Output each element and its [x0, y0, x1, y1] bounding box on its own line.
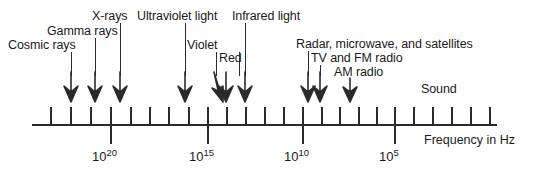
- arrow-am-radio: [341, 78, 359, 102]
- tick-label-e10-exponent: 10: [298, 147, 309, 158]
- tick-label-e15-exponent: 15: [203, 147, 214, 158]
- axis-tick: [489, 107, 491, 125]
- arrow-red: [217, 72, 235, 102]
- axis-major-tick-e20: [110, 107, 112, 144]
- leader-line-x-rays: [120, 23, 121, 76]
- label-violet: Violet: [187, 39, 217, 52]
- axis-tick: [339, 107, 341, 125]
- axis-title-frequency: Frequency in Hz: [424, 133, 515, 147]
- axis-tick: [358, 107, 360, 125]
- axis-tick: [226, 107, 228, 125]
- axis-tick: [321, 107, 323, 125]
- axis-tick: [70, 107, 72, 125]
- label-ultraviolet-light: Ultraviolet light: [137, 10, 217, 23]
- spectrum-figure: Cosmic rays Gamma rays X-rays Ultraviole…: [0, 0, 536, 174]
- label-cosmic-rays: Cosmic rays: [8, 39, 76, 52]
- axis-tick: [432, 107, 434, 125]
- axis-tick: [376, 107, 378, 125]
- axis-tick: [470, 107, 472, 125]
- axis-major-tick-e10: [302, 107, 304, 144]
- arrow-infrared-light: [236, 72, 254, 102]
- axis-tick: [413, 107, 415, 125]
- axis-major-tick-e15: [207, 107, 209, 144]
- tick-label-e5-base: 10: [379, 149, 393, 164]
- axis-tick: [451, 107, 453, 125]
- axis-tick: [149, 107, 151, 125]
- arrow-x-rays: [111, 72, 129, 102]
- arrow-gamma-rays: [86, 72, 104, 102]
- tick-label-e20: 1020: [92, 149, 117, 164]
- label-radar-microwave-satellites: Radar, microwave, and satellites: [296, 38, 473, 51]
- axis-tick: [168, 107, 170, 125]
- tick-label-e10: 1010: [284, 149, 309, 164]
- tick-label-e15-base: 10: [189, 149, 203, 164]
- tick-label-e5: 105: [379, 149, 399, 164]
- axis-tick: [90, 107, 92, 125]
- label-gamma-rays: Gamma rays: [47, 25, 118, 38]
- label-tv-and-fm-radio: TV and FM radio: [311, 52, 403, 65]
- arrow-ultraviolet-light: [176, 72, 194, 102]
- label-x-rays: X-rays: [92, 10, 128, 23]
- tick-label-e20-base: 10: [92, 149, 106, 164]
- leader-line-ultraviolet-light: [185, 23, 186, 76]
- axis-major-tick-e5: [394, 107, 396, 144]
- tick-label-e5-exponent: 5: [393, 147, 398, 158]
- tick-label-e10-base: 10: [284, 149, 298, 164]
- label-sound: Sound: [421, 83, 457, 96]
- label-infrared-light: Infrared light: [232, 10, 300, 23]
- arrow-tv-and-fm-radio: [311, 72, 329, 102]
- tick-label-e15: 1015: [189, 149, 214, 164]
- leader-line-gamma-rays: [95, 38, 96, 76]
- axis-tick: [130, 107, 132, 125]
- arrow-cosmic-rays: [62, 72, 80, 102]
- axis-tick: [188, 107, 190, 125]
- axis-tick: [264, 107, 266, 125]
- axis-tick: [283, 107, 285, 125]
- axis-tick: [50, 107, 52, 125]
- axis-tick: [245, 107, 247, 125]
- tick-label-e20-exponent: 20: [106, 147, 117, 158]
- leader-line-infrared-light: [245, 23, 246, 76]
